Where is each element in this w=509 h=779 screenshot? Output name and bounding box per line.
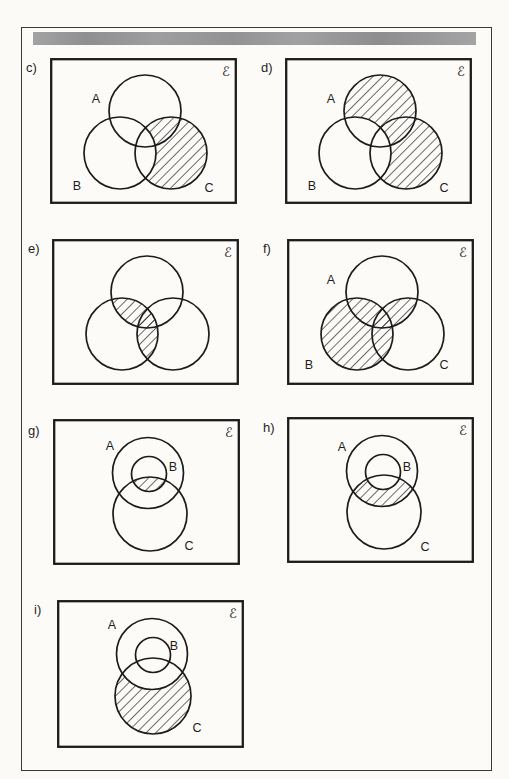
panel-letter-h: h): [263, 420, 275, 435]
universal-set-symbol: ℰ: [225, 425, 233, 440]
universal-set-symbol: ℰ: [459, 423, 467, 438]
venn-diagram-f: A B C ℰ: [287, 239, 474, 385]
venn-diagram-e: ℰ: [52, 239, 239, 385]
set-label-a: A: [92, 92, 101, 106]
header-bar: [33, 32, 476, 45]
set-label-b: B: [403, 460, 411, 474]
panel-letter-c: c): [26, 60, 37, 75]
set-label-a: A: [327, 273, 336, 287]
set-label-c: C: [439, 181, 448, 195]
panel-letter-e: e): [28, 241, 40, 256]
shaded-region: [321, 256, 418, 370]
venn-diagram-h: A B C ℰ: [287, 417, 474, 563]
panel-letter-f: f): [263, 241, 271, 256]
set-label-a: A: [327, 92, 336, 106]
set-label-c: C: [192, 721, 201, 735]
set-label-c: C: [204, 181, 213, 195]
panel-letter-g: g): [28, 423, 40, 438]
shaded-region: [111, 256, 209, 370]
set-label-c: C: [184, 539, 193, 553]
set-label-c: C: [439, 358, 448, 372]
venn-diagram-d: A B C ℰ: [285, 58, 472, 204]
set-label-c: C: [420, 540, 429, 554]
universal-set-symbol: ℰ: [459, 245, 467, 260]
universal-set-symbol: ℰ: [457, 64, 465, 79]
panel-e: ℰ: [52, 239, 239, 389]
set-label-b: B: [73, 179, 81, 193]
panel-f: A B C ℰ: [287, 239, 474, 389]
set-label-a: A: [338, 440, 347, 454]
set-label-b: B: [169, 460, 177, 474]
panel-i: A B C ℰ: [57, 600, 244, 752]
venn-diagram-g: A B C ℰ: [53, 419, 240, 565]
panel-h: A B C ℰ: [287, 417, 474, 567]
set-label-b: B: [305, 358, 313, 372]
universal-set-symbol: ℰ: [224, 245, 232, 260]
panel-c: A B C ℰ: [50, 58, 237, 208]
venn-diagram-i: A B C ℰ: [57, 600, 244, 748]
set-label-a: A: [108, 618, 117, 632]
universal-set-symbol: ℰ: [222, 64, 230, 79]
scanned-page: c) d) e) f) g) h) i) A B C ℰ: [0, 0, 509, 779]
panel-letter-d: d): [261, 60, 273, 75]
set-label-a: A: [106, 439, 115, 453]
set-label-b: B: [308, 179, 316, 193]
panel-letter-i: i): [34, 602, 41, 617]
panel-d: A B C ℰ: [285, 58, 472, 208]
panel-g: A B C ℰ: [53, 419, 240, 569]
set-label-b: B: [170, 639, 178, 653]
venn-diagram-c: A B C ℰ: [50, 58, 237, 204]
universal-set-symbol: ℰ: [229, 606, 237, 621]
